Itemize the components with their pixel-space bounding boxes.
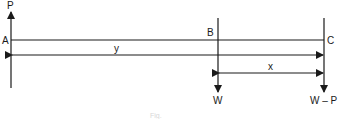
label-c: C — [327, 35, 334, 46]
label-p: P — [7, 0, 14, 11]
label-y: y — [114, 43, 119, 54]
label-w-minus-p: W – P — [310, 95, 338, 106]
label-b: B — [207, 27, 214, 38]
label-x: x — [268, 61, 273, 72]
label-w: W — [213, 95, 223, 106]
label-a: A — [2, 35, 9, 46]
beam-diagram: P A B C y x W W – P Fig. — [0, 0, 341, 119]
figure-caption: Fig. — [150, 112, 162, 119]
